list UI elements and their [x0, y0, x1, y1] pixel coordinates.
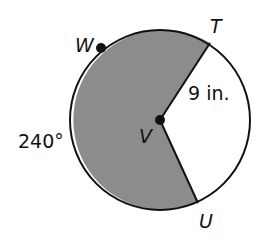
label-W: W	[75, 34, 95, 56]
label-U: U	[199, 210, 213, 232]
radius-label: 9 in.	[188, 82, 230, 104]
label-V: V	[139, 125, 154, 147]
point-V	[155, 115, 165, 125]
label-T: T	[210, 15, 223, 37]
circle-diagram: W T U V 9 in. 240°	[0, 0, 267, 248]
point-W	[96, 43, 106, 53]
arc-measure-label: 240°	[18, 130, 64, 152]
